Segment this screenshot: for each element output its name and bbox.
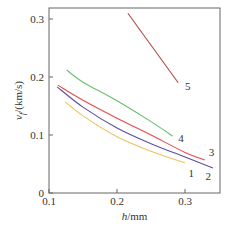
series-4-line [67,70,173,136]
curve-label-3: 3 [209,146,215,158]
y-tick-label: 0.2 [30,71,44,83]
curve-label-2: 2 [205,170,211,182]
x-tick-label: 0.1 [42,195,56,207]
series-5-line [128,13,178,83]
series-3-line [58,85,205,160]
y-tick-label: 0 [39,187,45,199]
y-tick-label: 0.3 [30,13,44,25]
axes: 0.10.20.300.10.20.3h/mmvf/(km/s) [12,8,220,222]
y-axis-title: vf/(km/s) [12,81,27,120]
curve-label-4: 4 [178,132,184,144]
curve-label-5: 5 [185,80,191,92]
x-axis-title: h/mm [122,210,148,222]
line-chart: 0.10.20.300.10.20.3h/mmvf/(km/s) 12345 [0,0,229,235]
x-tick-label: 0.2 [110,195,124,207]
x-tick-label: 0.3 [178,195,192,207]
y-tick-label: 0.1 [30,129,44,141]
curve-label-1: 1 [188,167,194,179]
